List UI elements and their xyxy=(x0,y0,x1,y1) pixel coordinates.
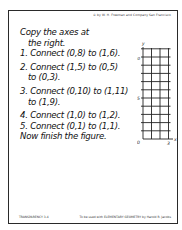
grid-lines xyxy=(141,47,173,139)
x-tick-3: 3 xyxy=(167,141,170,146)
step-3-cont: to (1,9). xyxy=(20,97,138,108)
step-5: 5. Connect (0,1) to (1,1). xyxy=(20,121,138,132)
step-1: 1. Connect (0,8) to (1,6). xyxy=(20,48,138,59)
step-4: 4. Connect (1,0) to (1,2). xyxy=(20,110,138,121)
step-2: 2. Connect (1,5) to (0,5) xyxy=(20,62,138,73)
closing-line: Now finish the figure. xyxy=(20,131,138,142)
y-tick-10: 10 xyxy=(137,56,141,61)
intro-line-2: the right. xyxy=(20,38,138,49)
intro-line-1: Copy the axes at xyxy=(20,27,138,38)
y-axis-label: y xyxy=(141,41,145,46)
x-axis-label: x xyxy=(173,137,177,142)
copyright-header: © by W. H. Freeman and Company San Franc… xyxy=(93,13,171,17)
publication-note: To be used with ELEMENTARY GEOMETRY by H… xyxy=(80,215,171,219)
y-tick-5: 5 xyxy=(137,96,140,101)
transparency-frame: © by W. H. Freeman and Company San Franc… xyxy=(8,10,178,224)
step-3: 3. Connect (0,10) to (1,11) xyxy=(20,86,138,97)
step-2-cont: to (0,3). xyxy=(20,72,138,83)
coordinate-grid: y x 10 5 0 3 xyxy=(137,39,182,149)
transparency-number: TRANSPARENCY 3-4 xyxy=(19,215,49,219)
origin-label: 0 xyxy=(137,140,140,145)
instructions-block: Copy the axes at the right. 1. Connect (… xyxy=(20,27,138,142)
